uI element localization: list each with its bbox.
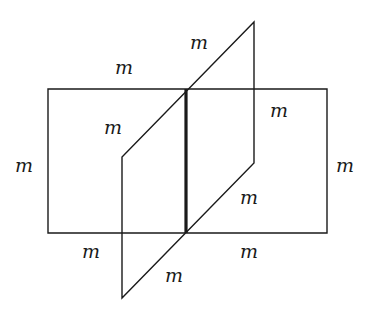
label-parallelogram-right-lower: m	[240, 188, 258, 207]
label-rectangle-top-left: m	[115, 58, 133, 77]
geometry-figure: mmmmmmmmmm	[0, 0, 377, 311]
geometry-canvas	[0, 0, 377, 311]
label-rectangle-left: m	[15, 156, 33, 175]
label-parallelogram-right-upper: m	[270, 101, 288, 120]
label-rectangle-bottom-right: m	[240, 242, 258, 261]
label-parallelogram-top: m	[190, 33, 208, 52]
label-parallelogram-upper-inner: m	[104, 118, 122, 137]
tilted-plane-parallelogram	[122, 22, 254, 298]
label-rectangle-right: m	[336, 156, 354, 175]
label-parallelogram-bottom: m	[165, 266, 183, 285]
label-rectangle-bottom-left: m	[82, 242, 100, 261]
